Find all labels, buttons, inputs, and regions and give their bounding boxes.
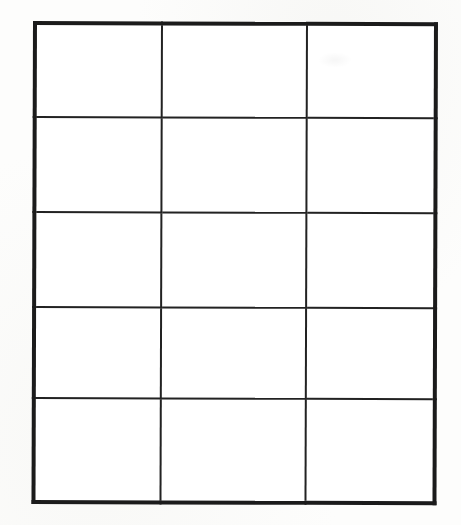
table-row[interactable] bbox=[34, 117, 435, 213]
table-container bbox=[31, 21, 434, 501]
table-cell-r3c1[interactable] bbox=[161, 307, 306, 398]
cell-text bbox=[36, 308, 160, 316]
table-cell-r3c2[interactable] bbox=[306, 308, 435, 399]
cell-text bbox=[307, 400, 433, 408]
table-cell-r3c0[interactable] bbox=[34, 307, 161, 398]
table-cell-r4c2[interactable] bbox=[305, 399, 434, 503]
cell-text bbox=[37, 25, 161, 33]
cell-text bbox=[163, 25, 306, 33]
cell-text bbox=[37, 118, 161, 126]
table-cell-r1c0[interactable] bbox=[34, 117, 161, 212]
table-row[interactable] bbox=[35, 23, 436, 118]
table-cell-r2c1[interactable] bbox=[161, 212, 306, 307]
blank-grid-table[interactable] bbox=[31, 21, 438, 505]
table-cell-r0c1[interactable] bbox=[162, 23, 307, 117]
cell-text bbox=[308, 26, 434, 34]
cell-text bbox=[162, 308, 305, 316]
cell-text bbox=[36, 399, 160, 407]
cell-text bbox=[162, 399, 305, 407]
table-cell-r0c0[interactable] bbox=[35, 23, 162, 117]
cell-text bbox=[163, 118, 306, 126]
cell-text bbox=[162, 213, 305, 221]
table-row[interactable] bbox=[33, 398, 434, 503]
table-cell-r1c1[interactable] bbox=[161, 117, 306, 212]
cell-text bbox=[36, 213, 160, 221]
cell-text bbox=[308, 119, 434, 127]
table-cell-r0c2[interactable] bbox=[307, 24, 436, 118]
table-cell-r4c1[interactable] bbox=[160, 398, 305, 502]
table-cell-r2c0[interactable] bbox=[34, 212, 161, 307]
cell-text bbox=[307, 309, 433, 317]
table-body bbox=[33, 23, 436, 503]
table-row[interactable] bbox=[34, 307, 435, 399]
table-cell-r1c2[interactable] bbox=[306, 118, 435, 213]
table-cell-r4c0[interactable] bbox=[33, 398, 160, 502]
table-cell-r2c2[interactable] bbox=[306, 213, 435, 308]
table-row[interactable] bbox=[34, 212, 435, 308]
cell-text bbox=[307, 214, 433, 222]
